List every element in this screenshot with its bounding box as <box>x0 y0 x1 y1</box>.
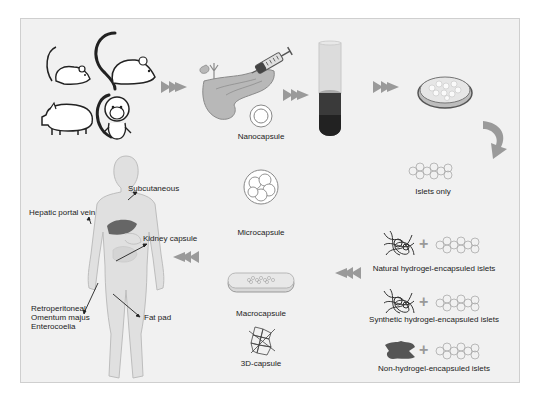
subcutaneous-label: Subcutaneous <box>128 184 179 193</box>
fat-pad-label: Fat pad <box>144 313 171 322</box>
pointer-lines <box>21 19 521 384</box>
enterocoelia-label: Enterocoelia <box>31 322 75 331</box>
omentum-majus-label: Omentum majus <box>31 313 90 322</box>
diagram-frame: Islets only + Natural hydrogel-encapsule… <box>20 18 520 383</box>
hepatic-portal-vein-label: Hepatic portal vein <box>29 208 95 217</box>
kidney-capsule-label: Kidney capsule <box>143 234 197 243</box>
retroperitoneal-label: Retroperitoneal <box>31 304 86 313</box>
